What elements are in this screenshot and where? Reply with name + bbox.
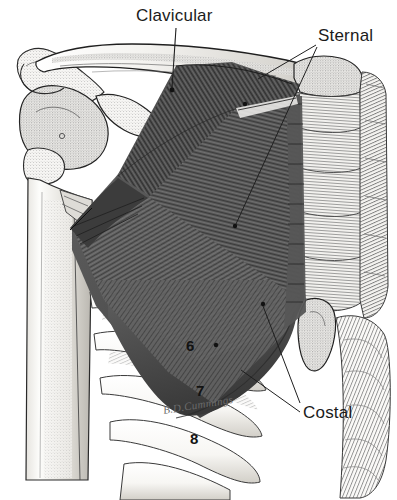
label-clavicular: Clavicular xyxy=(136,6,213,25)
dot-costal xyxy=(261,302,265,306)
dot-clavicular xyxy=(170,88,175,93)
label-sternal: Sternal xyxy=(318,26,373,45)
anatomy-illustration xyxy=(0,0,397,500)
dot-sternal-lower xyxy=(233,224,237,228)
costal-cartilage xyxy=(360,72,388,318)
rib-number-6: 6 xyxy=(186,338,194,354)
sternum-body xyxy=(296,92,364,311)
label-costal: Costal xyxy=(303,403,352,422)
rib-number-8: 8 xyxy=(190,431,198,447)
dot-costal-lower xyxy=(214,343,218,347)
anatomical-figure: Clavicular Sternal Costal 6 7 8 B.D.Cumm… xyxy=(0,0,397,500)
dot-sternal-upper xyxy=(243,102,247,106)
